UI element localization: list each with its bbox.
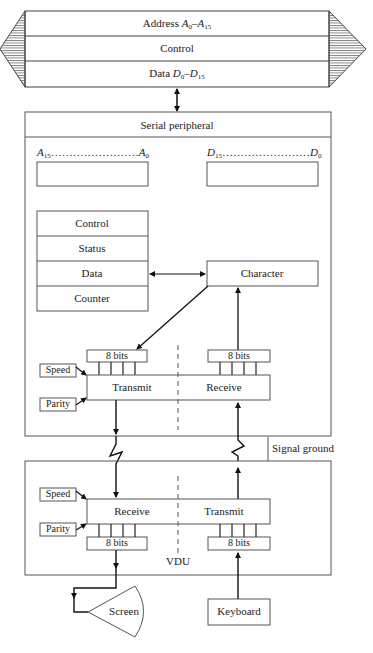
register-counter: Counter [74,293,109,304]
serial-peripheral-title: Serial peripheral [141,120,214,131]
address-register-box [37,162,148,186]
data-register-label: D15……………………D0 [207,147,321,160]
character-label: Character [241,268,284,279]
register-status: Status [79,243,106,254]
serial-speed-label: Speed [46,365,70,375]
data-register-box [207,162,318,186]
serial-parity-label: Parity [46,399,70,409]
vdu-title: VDU [166,556,190,567]
vdu-parity-label: Parity [46,524,70,534]
vdu-transmit-label: Transmit [204,506,243,517]
bus-data-label: Data D0–D15 [149,68,204,81]
serial-peripheral-box [25,112,331,436]
serial-link [110,400,268,499]
bus-right-arrow-icon [329,11,366,87]
serial-receive-label: Receive [206,382,241,393]
vdu-receive-label: Receive [114,506,149,517]
serial-transmit-label: Transmit [112,382,151,393]
screen-output [74,550,144,637]
bus-left-arrow-icon [0,11,25,87]
register-data: Data [82,268,103,279]
address-register-label: A15……………………A0 [37,147,149,160]
tx-8bits-label: 8 bits [106,351,128,361]
rx-8bits-label: 8 bits [228,351,250,361]
screen-label: Screen [109,606,139,617]
vdu-tx-8bits-label: 8 bits [228,538,250,548]
register-control: Control [75,218,109,229]
keyboard-label: Keyboard [217,606,260,617]
vdu-speed-label: Speed [46,489,70,499]
bus-control-label: Control [160,43,194,54]
signal-ground-label: Signal ground [272,443,334,454]
vdu-rx-8bits-label: 8 bits [106,538,128,548]
bus-address-label: Address A0–A15 [143,18,211,31]
